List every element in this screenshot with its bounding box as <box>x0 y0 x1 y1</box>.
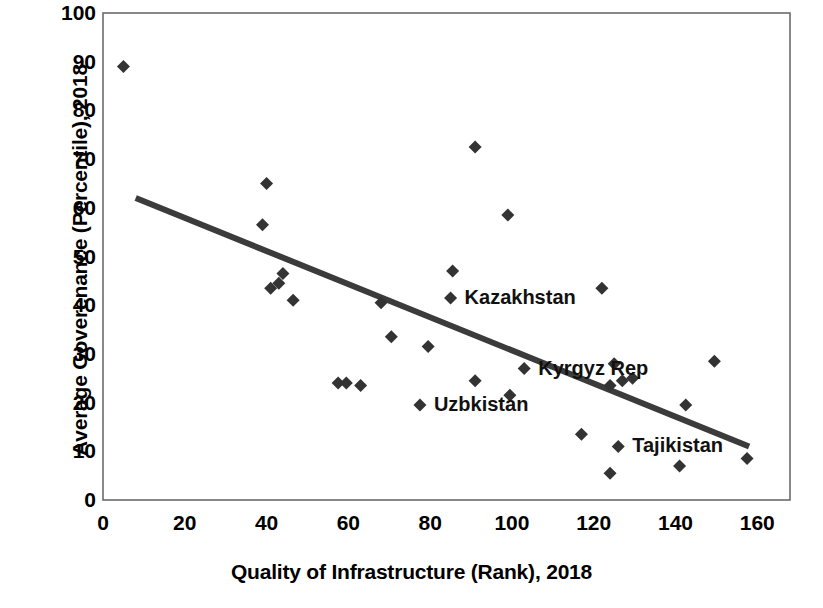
data-point-marker <box>679 399 692 412</box>
data-point-label: Kazakhstan <box>465 287 576 307</box>
data-point-marker <box>741 452 754 465</box>
data-point-marker <box>287 294 300 307</box>
data-point-marker <box>612 440 625 453</box>
data-point-label: Kyrgyz Rep <box>538 358 648 378</box>
data-point-marker <box>673 459 686 472</box>
x-axis-title: Quality of Infrastructure (Rank), 2018 <box>0 560 823 584</box>
data-point-marker <box>518 362 531 375</box>
data-point-marker <box>708 355 721 368</box>
data-point-marker <box>260 177 273 190</box>
data-point-marker <box>354 379 367 392</box>
data-point-marker <box>422 340 435 353</box>
scatter-chart: Average Goverenance (Percentile), 2018 1… <box>0 0 823 608</box>
plot-frame <box>103 13 790 500</box>
data-point-label: Uzbkistan <box>434 394 528 414</box>
data-point-marker <box>604 467 617 480</box>
data-point-marker <box>256 218 269 231</box>
data-point-marker <box>469 140 482 153</box>
plot-area <box>0 0 823 608</box>
data-point-marker <box>444 291 457 304</box>
data-point-marker <box>340 377 353 390</box>
data-point-marker <box>446 265 459 278</box>
data-points <box>117 60 754 480</box>
data-point-marker <box>385 330 398 343</box>
data-point-marker <box>469 374 482 387</box>
data-point-marker <box>413 399 426 412</box>
data-point-marker <box>501 209 514 222</box>
data-point-marker <box>117 60 130 73</box>
data-point-marker <box>575 428 588 441</box>
data-point-label: Tajikistan <box>632 435 723 455</box>
data-point-marker <box>595 282 608 295</box>
